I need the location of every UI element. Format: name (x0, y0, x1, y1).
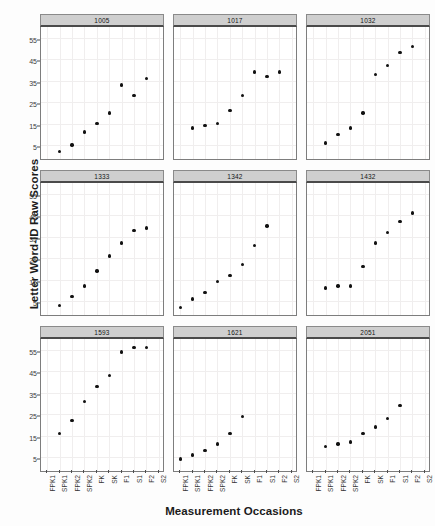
vertical-gridline (255, 339, 256, 471)
y-tick-label: 15 (29, 122, 37, 129)
x-tick-mark (254, 470, 255, 473)
data-point (203, 291, 206, 294)
horizontal-gridline (41, 194, 163, 195)
horizontal-gridline (307, 436, 429, 437)
vertical-gridline (338, 27, 339, 159)
vertical-gridline (255, 27, 256, 159)
x-axis: FPK1SPK1FPK2SPK2FKSKF1S1F2S2 (306, 470, 430, 510)
vertical-gridline (242, 339, 243, 471)
vertical-gridline (97, 339, 98, 471)
x-tick-label: F1 (389, 475, 396, 483)
data-point (241, 263, 244, 266)
vertical-gridline (267, 339, 268, 471)
data-point (83, 284, 86, 287)
horizontal-gridline (307, 145, 429, 146)
y-axis: 51525354555 (0, 170, 40, 326)
horizontal-gridline (41, 258, 163, 259)
x-tick-mark (266, 470, 267, 473)
vertical-gridline (350, 183, 351, 315)
data-point (349, 440, 352, 443)
data-point (83, 400, 86, 403)
x-tick-label: FPK1 (182, 475, 189, 492)
data-point (191, 297, 194, 300)
data-point (361, 432, 364, 435)
horizontal-gridline (174, 414, 296, 415)
vertical-gridline (47, 183, 48, 315)
data-point (265, 75, 268, 78)
vertical-gridline (180, 27, 181, 159)
data-point (95, 269, 98, 272)
vertical-gridline (159, 183, 160, 315)
y-tick-label: 55 (29, 192, 37, 199)
data-point (253, 70, 256, 73)
vertical-gridline (72, 339, 73, 471)
vertical-gridline (72, 27, 73, 159)
x-tick-mark (121, 470, 122, 473)
data-point (411, 211, 414, 214)
horizontal-gridline (174, 393, 296, 394)
horizontal-gridline (307, 457, 429, 458)
x-axis: FPK1SPK1FPK2SPK2FKSKF1S1F2S2 (40, 470, 164, 510)
data-point (265, 224, 268, 227)
data-point (132, 94, 135, 97)
vertical-gridline (159, 27, 160, 159)
data-point (120, 241, 123, 244)
panel-plot-area (40, 339, 164, 472)
data-point (203, 449, 206, 452)
horizontal-gridline (307, 81, 429, 82)
y-tick-label: 25 (29, 257, 37, 264)
data-point (228, 274, 231, 277)
vertical-gridline (425, 339, 426, 471)
horizontal-gridline (41, 145, 163, 146)
data-point (241, 415, 244, 418)
y-tick-label: 45 (29, 370, 37, 377)
vertical-gridline (47, 339, 48, 471)
y-tick-label: 15 (29, 278, 37, 285)
vertical-gridline (363, 183, 364, 315)
panel-plot-area (306, 183, 430, 316)
horizontal-gridline (307, 371, 429, 372)
data-point (216, 280, 219, 283)
panel-strip-label: 1333 (40, 170, 164, 183)
vertical-gridline (279, 339, 280, 471)
x-tick-mark (291, 470, 292, 473)
data-point (70, 295, 73, 298)
horizontal-gridline (41, 237, 163, 238)
x-tick-mark (108, 470, 109, 473)
horizontal-gridline (174, 258, 296, 259)
y-tick-label: 15 (29, 434, 37, 441)
x-tick-mark (46, 470, 47, 473)
data-point (83, 130, 86, 133)
vertical-gridline (230, 27, 231, 159)
x-tick-mark (411, 470, 412, 473)
data-point (374, 73, 377, 76)
x-tick-mark (229, 470, 230, 473)
vertical-gridline (338, 183, 339, 315)
vertical-gridline (255, 183, 256, 315)
data-point (253, 244, 256, 247)
vertical-gridline (146, 27, 147, 159)
vertical-gridline (338, 339, 339, 471)
vertical-gridline (267, 183, 268, 315)
data-point (95, 385, 98, 388)
horizontal-gridline (307, 124, 429, 125)
facet-panel-1333: 1333 (40, 170, 164, 318)
x-tick-mark (424, 470, 425, 473)
horizontal-gridline (41, 102, 163, 103)
y-tick-label: 25 (29, 101, 37, 108)
x-tick-label: F2 (148, 475, 155, 483)
y-tick-label: 45 (29, 214, 37, 221)
horizontal-gridline (174, 59, 296, 60)
data-point (191, 453, 194, 456)
horizontal-gridline (41, 280, 163, 281)
data-point (324, 286, 327, 289)
panel-plot-area (173, 27, 297, 160)
data-point (228, 109, 231, 112)
data-point (108, 374, 111, 377)
y-axis: 51525354555 (0, 14, 40, 170)
x-tick-label: S2 (160, 475, 167, 483)
x-tick-mark (216, 470, 217, 473)
facet-panel-1005: 1005 (40, 14, 164, 162)
vertical-gridline (159, 339, 160, 471)
vertical-gridline (84, 339, 85, 471)
